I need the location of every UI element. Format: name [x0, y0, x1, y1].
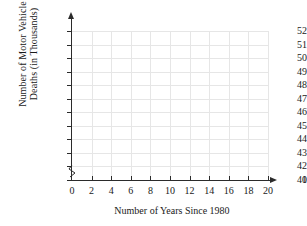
- gridline-horizontal: [72, 153, 268, 154]
- y-tick-label: 41: [261, 174, 307, 185]
- gridline-vertical: [150, 31, 151, 180]
- x-axis-tick: [170, 176, 171, 181]
- y-axis-tick: [67, 31, 72, 32]
- y-tick-label: 44: [261, 133, 307, 144]
- y-axis-tick: [67, 58, 72, 59]
- y-tick-label: 45: [261, 120, 307, 131]
- gridline-vertical: [170, 31, 171, 180]
- y-tick-label: 51: [261, 39, 307, 50]
- x-axis-line: [71, 180, 272, 181]
- gridline-vertical: [248, 31, 249, 180]
- gridline-horizontal: [72, 31, 268, 32]
- y-axis-tick: [67, 72, 72, 73]
- x-axis-tick: [111, 176, 112, 181]
- gridline-horizontal: [72, 58, 268, 59]
- y-axis-tick: [67, 139, 72, 140]
- y-tick-label: 50: [261, 52, 307, 63]
- y-tick-label: 49: [261, 66, 307, 77]
- x-axis-title: Number of Years Since 1980: [72, 205, 272, 216]
- gridline-horizontal: [72, 139, 268, 140]
- y-tick-label: 47: [261, 93, 307, 104]
- y-axis-break-icon: [67, 165, 77, 179]
- x-axis-tick: [190, 176, 191, 181]
- y-tick-label: 48: [261, 79, 307, 90]
- y-axis-tick: [67, 99, 72, 100]
- x-axis-tick: [150, 176, 151, 181]
- gridline-horizontal: [72, 166, 268, 167]
- y-tick-label: 43: [261, 147, 307, 158]
- y-axis-tick: [67, 126, 72, 127]
- plot-area: [72, 31, 268, 180]
- y-tick-label: 46: [261, 106, 307, 117]
- gridline-vertical: [229, 31, 230, 180]
- y-axis-tick: [67, 85, 72, 86]
- y-axis-title: Number of Motor Vehicle Deaths (in Thous…: [11, 0, 47, 129]
- gridline-horizontal: [72, 126, 268, 127]
- y-axis-arrow-icon: [68, 12, 74, 19]
- x-tick-label: 20: [256, 185, 280, 196]
- gridline-horizontal: [72, 72, 268, 73]
- gridline-vertical: [131, 31, 132, 180]
- chart-container: Number of Motor Vehicle Deaths (in Thous…: [0, 0, 307, 226]
- gridline-vertical: [209, 31, 210, 180]
- y-axis-tick: [67, 45, 72, 46]
- x-axis-tick: [209, 176, 210, 181]
- y-axis-tick: [67, 153, 72, 154]
- y-axis-tick: [67, 112, 72, 113]
- y-axis-title-line-2: Deaths (in Thousands): [29, 8, 40, 100]
- gridline-vertical: [92, 31, 93, 180]
- gridline-horizontal: [72, 85, 268, 86]
- y-axis-tick: [67, 180, 72, 181]
- y-tick-label: 42: [261, 160, 307, 171]
- x-axis-tick: [248, 176, 249, 181]
- y-tick-label: 52: [261, 25, 307, 36]
- x-axis-tick: [131, 176, 132, 181]
- gridline-horizontal: [72, 112, 268, 113]
- gridline-horizontal: [72, 45, 268, 46]
- x-axis-tick: [92, 176, 93, 181]
- gridline-vertical: [190, 31, 191, 180]
- gridline-vertical: [111, 31, 112, 180]
- gridline-horizontal: [72, 99, 268, 100]
- x-axis-tick: [229, 176, 230, 181]
